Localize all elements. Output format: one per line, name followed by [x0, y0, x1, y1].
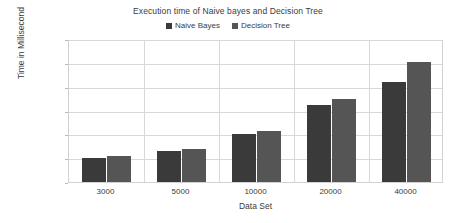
bar-naive-bayes[interactable]: [307, 105, 331, 182]
bar-decision-tree[interactable]: [407, 62, 431, 182]
legend-item-label: Naive Bayes: [175, 21, 220, 30]
bar-naive-bayes[interactable]: [382, 82, 406, 182]
legend-item[interactable]: Decision Tree: [232, 21, 290, 30]
y-axis-title: Time in Millisecond: [16, 0, 26, 113]
chart-legend: Naive BayesDecision Tree: [0, 21, 456, 30]
x-axis-tick-label: 5000: [172, 187, 190, 196]
x-axis-title: Data Set: [68, 201, 443, 211]
y-axis-tick-mark: [65, 183, 68, 184]
bar-decision-tree[interactable]: [257, 131, 281, 182]
plot-area: [68, 40, 443, 183]
legend-item-label: Decision Tree: [241, 21, 290, 30]
y-axis-tick-mark: [65, 88, 68, 89]
bar-decision-tree[interactable]: [332, 99, 356, 182]
bar-naive-bayes[interactable]: [232, 134, 256, 182]
y-axis-tick-mark: [65, 40, 68, 41]
y-axis-tick-mark: [65, 112, 68, 113]
bar-decision-tree[interactable]: [107, 156, 131, 182]
chart-title: Execution time of Naive bayes and Decisi…: [0, 6, 456, 16]
x-axis-tick-label: 20000: [319, 187, 341, 196]
bar-group: [369, 41, 444, 182]
x-axis-tick-label: 10000: [244, 187, 266, 196]
bar-naive-bayes[interactable]: [157, 151, 181, 182]
y-axis-tick-mark: [65, 159, 68, 160]
x-axis-tick-label: 40000: [394, 187, 416, 196]
y-axis-tick-mark: [65, 135, 68, 136]
bar-naive-bayes[interactable]: [82, 158, 106, 182]
bar-chart: Execution time of Naive bayes and Decisi…: [0, 0, 456, 223]
y-axis-tick-mark: [65, 64, 68, 65]
legend-swatch-icon: [166, 23, 172, 29]
legend-swatch-icon: [232, 23, 238, 29]
bar-group: [69, 41, 144, 182]
legend-item[interactable]: Naive Bayes: [166, 21, 220, 30]
x-axis-tick-label: 3000: [97, 187, 115, 196]
bar-decision-tree[interactable]: [182, 149, 206, 182]
bar-group: [144, 41, 219, 182]
bar-group: [294, 41, 369, 182]
bar-group: [219, 41, 294, 182]
